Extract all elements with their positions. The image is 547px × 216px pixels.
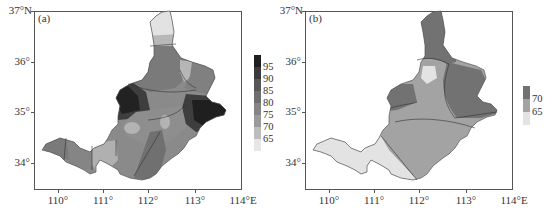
x-tick-mark [329,189,330,193]
y-tick-mark [31,112,35,113]
x-tick-mark [466,189,467,193]
y-tick-mark [31,163,35,164]
x-tick-mark [148,189,149,193]
x-tick-mark [419,189,420,193]
y-tick-label: 34° [271,156,301,168]
x-tick-label: 110° [38,194,78,206]
panel-label: (b) [309,12,322,24]
y-tick-mark [302,62,306,63]
x-tick-label: 113° [175,194,215,206]
map-a [0,0,275,216]
x-tick-label: 111° [354,194,394,206]
y-tick-mark [31,62,35,63]
x-tick-mark [103,189,104,193]
y-tick-mark [302,112,306,113]
panel-a: 37°N 36° 35° 34° 110° 111° 112° 113° 114… [0,0,275,216]
y-tick-label: 35° [0,105,30,117]
y-tick-mark [302,11,306,12]
x-tick-mark [374,189,375,193]
x-tick-label: 111° [83,194,123,206]
x-tick-label: 110° [309,194,349,206]
y-tick-mark [302,163,306,164]
x-tick-mark [195,189,196,193]
panel-b: 37°N 36° 35° 34° 110° 111° 112° 113° 114… [271,0,547,216]
map-b [271,0,547,216]
colorbar-label: 70 [532,93,543,104]
y-tick-label: 37°N [2,4,32,16]
colorbar-label: 65 [532,106,543,117]
y-tick-label: 37°N [273,4,303,16]
panel-label: (a) [38,12,50,24]
colorbar-b [523,86,530,125]
x-tick-label: 112° [399,194,439,206]
y-tick-label: 36° [271,55,301,67]
x-tick-label: 114°E [223,194,263,206]
x-tick-mark [58,189,59,193]
y-tick-label: 36° [0,55,30,67]
x-tick-label: 112° [128,194,168,206]
y-tick-label: 34° [0,156,30,168]
colorbar-a [254,55,261,151]
y-tick-mark [31,11,35,12]
y-tick-label: 35° [271,105,301,117]
x-tick-label: 114°E [494,194,534,206]
x-tick-label: 113° [446,194,486,206]
